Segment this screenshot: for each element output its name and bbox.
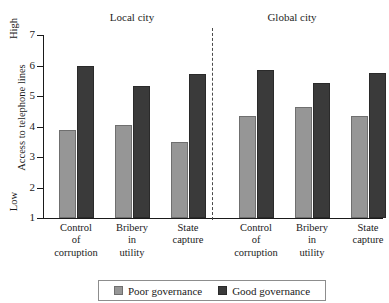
panel-divider-dashed-line <box>212 28 213 220</box>
y-axis-tick <box>37 66 43 67</box>
x-axis-label-line: utility <box>274 247 350 259</box>
x-axis-label-line: State <box>150 222 226 234</box>
bar-poor-governance <box>351 116 368 218</box>
bar-chart-figure: Local city Global city Access to telepho… <box>0 0 389 303</box>
legend-label-poor-governance: Poor governance <box>128 285 202 297</box>
x-axis-label-line: capture <box>150 234 226 246</box>
bar-good-governance <box>313 83 330 218</box>
bar-good-governance <box>133 86 150 218</box>
y-axis-tick-label: 3 <box>21 150 35 162</box>
y-axis-tick-label: 2 <box>21 181 35 193</box>
poor-governance-swatch <box>114 286 123 295</box>
y-axis-tick <box>37 127 43 128</box>
y-axis-anchor-high: High <box>8 12 19 46</box>
x-axis-label-line: capture <box>330 234 389 246</box>
x-axis-label-line: State <box>330 222 389 234</box>
y-axis-tick <box>37 96 43 97</box>
y-axis-tick-label: 4 <box>21 120 35 132</box>
panel-title-global-city: Global city <box>222 11 362 23</box>
legend-label-good-governance: Good governance <box>232 285 310 297</box>
panel-title-local-city: Local city <box>62 11 202 23</box>
y-axis-tick <box>37 188 43 189</box>
bar-poor-governance <box>115 125 132 218</box>
y-axis-tick <box>37 157 43 158</box>
legend-item-poor-governance: Poor governance <box>114 285 202 297</box>
y-axis-tick-label: 5 <box>21 89 35 101</box>
chart-legend: Poor governance Good governance <box>98 280 326 301</box>
x-axis-category-label: Statecapture <box>150 222 226 247</box>
x-axis-category-label: Statecapture <box>330 222 389 247</box>
y-axis-tick-label: 6 <box>21 59 35 71</box>
y-axis-tick <box>37 218 43 219</box>
x-axis-line <box>43 218 383 219</box>
x-axis-label-line: utility <box>94 247 170 259</box>
y-axis-tick <box>37 35 43 36</box>
bar-poor-governance <box>239 116 256 218</box>
good-governance-swatch <box>218 286 227 295</box>
legend-item-good-governance: Good governance <box>218 285 310 297</box>
bar-poor-governance <box>295 107 312 218</box>
bar-poor-governance <box>171 142 188 218</box>
bar-good-governance <box>257 70 274 218</box>
bar-good-governance <box>77 66 94 219</box>
bar-good-governance <box>369 73 386 218</box>
plot-area <box>44 35 383 218</box>
y-axis-tick-label: 7 <box>21 28 35 40</box>
bar-good-governance <box>189 74 206 218</box>
y-axis-anchor-low: Low <box>8 185 19 219</box>
bar-poor-governance <box>59 130 76 218</box>
y-axis-tick-label: 1 <box>21 211 35 223</box>
